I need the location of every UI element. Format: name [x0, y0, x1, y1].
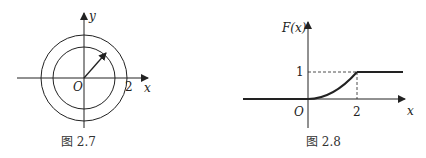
- origin-label: O: [294, 105, 304, 119]
- figures-canvas: y x O 2 图 2.7 F(x) x O 2 1 图 2.8: [0, 0, 426, 158]
- y-axis-label: y: [88, 9, 96, 23]
- figure-caption: 图 2.7: [61, 135, 96, 149]
- figure-2-8: F(x) x O 2 1 图 2.8: [243, 21, 414, 149]
- figure-2-7: y x O 2 图 2.7: [17, 9, 151, 149]
- radius-arrow: [84, 53, 106, 78]
- origin-label: O: [73, 80, 83, 94]
- y-tick-1: 1: [296, 65, 304, 79]
- x-axis-label: x: [407, 104, 414, 118]
- x-tick-2: 2: [353, 105, 361, 119]
- x-tick-2: 2: [125, 80, 133, 94]
- cdf-curve: [308, 72, 357, 99]
- figure-caption: 图 2.8: [306, 135, 341, 149]
- x-axis-label: x: [144, 81, 151, 95]
- y-axis-label: F(x): [281, 21, 307, 35]
